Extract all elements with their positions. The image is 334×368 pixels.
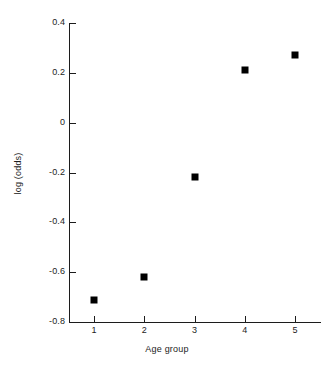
y-tick-label: -0.8 [32,317,65,326]
y-axis-title: log (odds) [13,134,24,214]
x-tick-label: 2 [134,325,154,335]
y-tick-label: -0.4 [32,217,65,226]
x-tick-mark [144,316,145,323]
y-tick-mark [69,23,76,24]
y-tick-mark [69,222,76,223]
x-tick-label: 5 [285,325,305,335]
data-point-marker [191,174,198,181]
scatter-plot-figure: 0.40.20-0.2-0.4-0.6-0.8 12345 Age group … [0,0,334,368]
y-tick-label: -0.2 [32,168,65,177]
y-tick-label: 0.2 [32,68,65,77]
x-tick-label: 3 [185,325,205,335]
data-point-marker [141,274,148,281]
data-point-marker [291,52,298,59]
x-tick-mark [195,316,196,323]
y-tick-mark [69,123,76,124]
y-tick-mark [69,73,76,74]
x-axis-title: Age group [0,344,334,355]
y-tick-label: 0 [32,118,65,127]
x-tick-mark [295,316,296,323]
x-tick-label: 4 [235,325,255,335]
y-tick-mark [69,322,76,323]
data-point-marker [241,67,248,74]
y-tick-mark [69,173,76,174]
y-tick-label: 0.4 [32,18,65,27]
y-tick-mark [69,272,76,273]
y-tick-label: -0.6 [32,267,65,276]
data-point-marker [91,296,98,303]
x-tick-mark [94,316,95,323]
x-tick-label: 1 [84,325,104,335]
x-tick-mark [245,316,246,323]
